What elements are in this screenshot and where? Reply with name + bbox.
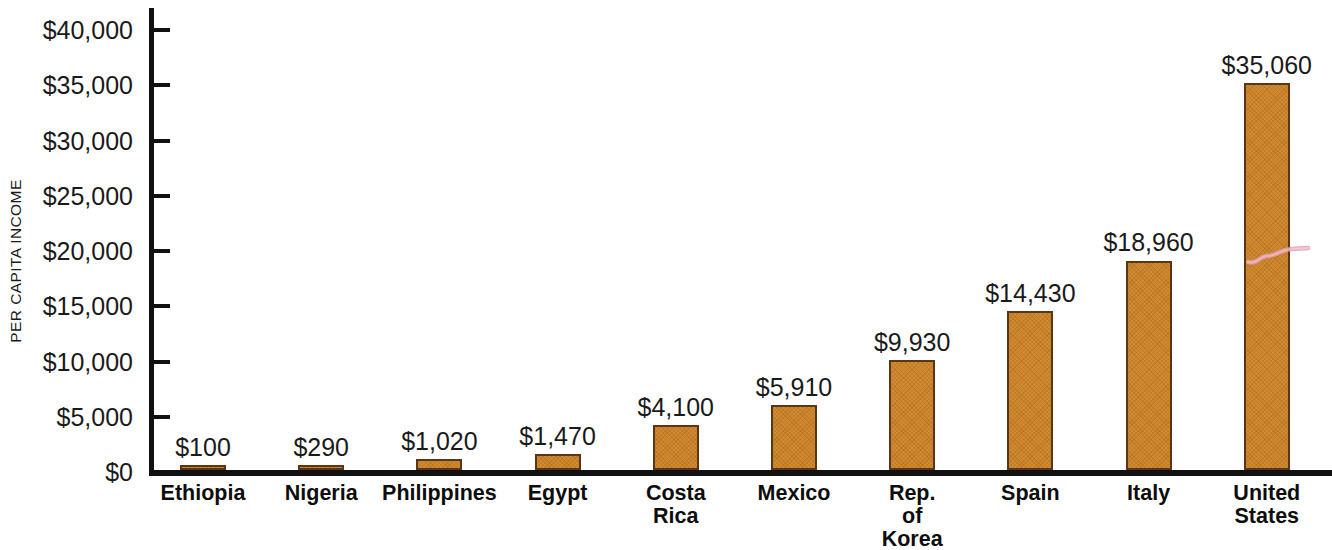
x-axis-category-label: Egypt [528, 482, 588, 505]
bar-group: $290Nigeria [298, 0, 344, 529]
x-axis-category-label: Italy [1127, 482, 1170, 505]
x-axis-category-label: Costa Rica [646, 482, 706, 528]
bar-value-label: $35,060 [1222, 51, 1312, 80]
bar-value-label: $18,960 [1103, 228, 1193, 257]
bar[interactable] [1126, 261, 1172, 471]
x-axis-category-label: United States [1233, 482, 1300, 528]
bar-value-label: $5,910 [756, 373, 832, 402]
bar-group: $100Ethiopia [180, 0, 226, 529]
bar-group: $1,020Philippines [416, 0, 462, 529]
bar[interactable] [416, 459, 462, 470]
x-axis-category-label: Spain [1001, 482, 1060, 505]
bar-group: $14,430Spain [1007, 0, 1053, 529]
bar-value-label: $100 [175, 433, 231, 462]
bar[interactable] [180, 465, 226, 470]
bar-group: $35,060United States [1244, 0, 1290, 529]
bar-group: $5,910Mexico [771, 0, 817, 529]
x-axis-category-label: Ethiopia [161, 482, 246, 505]
bar-value-label: $1,020 [401, 427, 477, 456]
bar[interactable] [889, 360, 935, 470]
bar-value-label: $4,100 [638, 393, 714, 422]
x-axis-category-label: Philippines [382, 482, 497, 505]
x-axis-category-label: Mexico [758, 482, 831, 505]
bar[interactable] [653, 425, 699, 470]
bar[interactable] [535, 454, 581, 470]
bar[interactable] [771, 405, 817, 470]
bar-group: $18,960Italy [1126, 0, 1172, 529]
bar-value-label: $1,470 [519, 422, 595, 451]
bar[interactable] [1244, 83, 1290, 470]
bar-value-label: $14,430 [985, 279, 1075, 308]
bar-value-label: $9,930 [874, 328, 950, 357]
x-axis-category-label: Nigeria [285, 482, 358, 505]
x-axis-category-label: Rep. of Korea [882, 482, 943, 550]
bar[interactable] [1007, 311, 1053, 470]
bar-value-label: $290 [293, 433, 349, 462]
bar-group: $9,930Rep. of Korea [889, 0, 935, 529]
bar-group: $4,100Costa Rica [653, 0, 699, 529]
bar[interactable] [298, 465, 344, 470]
bar-group: $1,470Egypt [535, 0, 581, 529]
